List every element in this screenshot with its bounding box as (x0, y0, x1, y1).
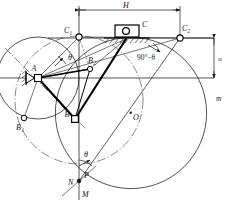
label-theta-bottom: θ (84, 150, 88, 159)
label-C2-sub: 2 (188, 28, 191, 34)
link-B2-B (75, 69, 90, 119)
label-C1: C 1 (64, 26, 73, 36)
label-B1: B 1 (16, 123, 25, 133)
label-B2-sub: 2 (94, 60, 97, 66)
label-M: M (81, 190, 90, 199)
label-B2-base: B (88, 56, 93, 65)
label-C: C (142, 20, 148, 29)
joint-B2 (87, 66, 92, 71)
label-B1-base: B (16, 123, 21, 132)
text-labels: A B B 1 B 2 C 1 C 2 C O N P M (16, 20, 222, 199)
label-C1-sub: 1 (70, 30, 73, 36)
link-B-C (75, 39, 126, 119)
point-NP-marker (77, 179, 81, 183)
label-B1-sub: 1 (22, 127, 25, 133)
label-O: O (133, 113, 139, 122)
theta-arrow-top (55, 58, 63, 66)
linkage-thick-members (38, 39, 126, 119)
label-B2: B 2 (88, 56, 97, 66)
label-N: N (67, 178, 74, 187)
dimension-H-label: H (122, 1, 130, 10)
label-A: A (31, 64, 37, 73)
joint-C2 (177, 35, 183, 41)
label-theta-top: θ (68, 53, 72, 62)
joint-C1 (76, 34, 82, 40)
dimension-u: u (180, 38, 222, 78)
mechanism-diagram: H u (0, 0, 239, 206)
joint-markers (21, 34, 183, 183)
dimension-u-label: u (218, 55, 222, 63)
label-P: P (83, 171, 89, 180)
label-C2: C 2 (182, 24, 191, 34)
label-complement-angle: 90°−θ (137, 53, 156, 62)
joint-B (72, 116, 79, 123)
joint-B1 (21, 115, 27, 121)
mechanism-canvas: H u (0, 0, 239, 206)
chord-lines (62, 37, 180, 196)
point-O-marker (130, 112, 132, 114)
label-circle-m: m (216, 94, 222, 103)
label-B: B (65, 110, 70, 119)
